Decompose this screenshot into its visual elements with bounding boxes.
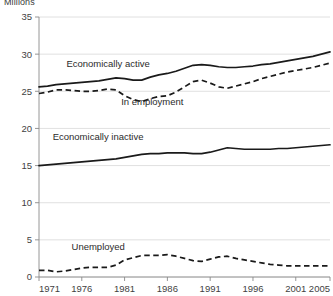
x-tick-labels: 19711976198119861991199620012005 <box>39 283 330 294</box>
x-tick-label: 2005 <box>309 283 330 294</box>
line-chart: 05101520253035 1971197619811986199119962… <box>0 0 333 296</box>
y-tick-label: 10 <box>21 197 32 208</box>
y-tick-label: 5 <box>27 234 32 245</box>
y-tick-marks <box>35 17 39 277</box>
x-tick-label: 2001 <box>285 283 306 294</box>
series-label-2: Economically inactive <box>53 131 144 142</box>
series-label-0: Economically active <box>66 58 149 69</box>
y-tick-label: 30 <box>21 49 32 60</box>
series-label-1: In employment <box>121 96 184 107</box>
y-tick-label: 15 <box>21 160 32 171</box>
x-tick-label: 1991 <box>200 283 221 294</box>
y-axis-title: Millions <box>4 0 35 7</box>
y-tick-label: 35 <box>21 11 32 22</box>
series-line-2 <box>39 145 330 166</box>
series-paths <box>39 52 330 272</box>
x-tick-label: 1976 <box>71 283 92 294</box>
y-tick-label: 0 <box>27 271 32 282</box>
series-line-3 <box>39 255 330 272</box>
x-tick-label: 1996 <box>242 283 263 294</box>
series-annotations: Economically activeIn employmentEconomic… <box>53 58 184 252</box>
x-tick-label: 1986 <box>157 283 178 294</box>
series-label-3: Unemployed <box>72 241 125 252</box>
chart-container: Millions 05101520253035 1971197619811986… <box>0 0 333 296</box>
y-tick-labels: 05101520253035 <box>21 11 32 282</box>
y-tick-label: 25 <box>21 86 32 97</box>
gridlines <box>39 17 330 277</box>
y-tick-label: 20 <box>21 123 32 134</box>
x-tick-marks <box>39 277 330 281</box>
x-tick-label: 1971 <box>39 283 60 294</box>
x-tick-label: 1981 <box>114 283 135 294</box>
